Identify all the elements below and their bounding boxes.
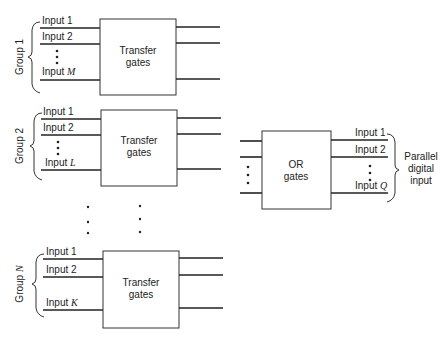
group-n-input-1-label: Input 1 [46, 246, 77, 257]
parallel-label-line1: Parallel [404, 151, 437, 162]
or-output-1-label: Input 1 [355, 127, 386, 138]
ellipsis-dot [56, 50, 59, 53]
ellipsis-dot [56, 62, 59, 65]
diagram-canvas: Group 1 Input 1 Input 2 Input M Transfer… [0, 0, 444, 343]
or-block-label-line1: OR [289, 159, 304, 170]
parallel-label-line2: digital [408, 163, 434, 174]
group-2-input-l-label: Input L [45, 157, 76, 168]
parallel-brace [387, 134, 399, 202]
group-1-brace [28, 22, 40, 93]
ellipsis-dot [57, 141, 60, 144]
group-1-block-label-line2: gates [126, 57, 150, 68]
group-n-brace [32, 254, 44, 317]
group-2-input-2-label: Input 2 [43, 122, 74, 133]
ellipsis-dot [87, 206, 89, 208]
group-2-brace [30, 113, 42, 180]
or-output-q-label: Input Q [355, 180, 388, 191]
group-n-input-2-label: Input 2 [46, 264, 77, 275]
group-1: Group 1 Input 1 Input 2 Input M Transfer… [14, 15, 220, 95]
ellipsis-dot [139, 205, 141, 207]
group-n-label: Group N [14, 264, 25, 303]
ellipsis-dot [139, 231, 141, 233]
group-n: Group N Input 1 Input 2 Input K Transfer… [14, 246, 223, 328]
ellipsis-dot [87, 221, 89, 223]
group-2-input-1-label: Input 1 [43, 106, 74, 117]
ellipsis-dot [56, 56, 59, 59]
ellipsis-dot [247, 182, 250, 185]
group-n-input-k-label: Input K [46, 297, 79, 308]
group-ellipsis [87, 205, 141, 234]
group-1-block-label-line1: Transfer [120, 45, 158, 56]
or-gates: OR gates Input 1 Input 2 Input Q Paralle… [240, 127, 438, 209]
group-n-block-label-line1: Transfer [123, 277, 161, 288]
ellipsis-dot [369, 165, 372, 168]
group-1-input-1-label: Input 1 [42, 15, 73, 26]
group-2-label: Group 2 [14, 127, 25, 164]
group-1-input-m-label: Input M [42, 66, 76, 77]
or-output-2-label: Input 2 [355, 144, 386, 155]
group-2-block-label-line1: Transfer [121, 135, 159, 146]
ellipsis-dot [139, 218, 141, 220]
ellipsis-dot [57, 147, 60, 150]
parallel-label-line3: input [410, 175, 432, 186]
ellipsis-dot [247, 166, 250, 169]
group-1-label: Group 1 [14, 38, 25, 75]
ellipsis-dot [87, 232, 89, 234]
ellipsis-dot [247, 174, 250, 177]
ellipsis-dot [57, 153, 60, 156]
group-2-block-label-line2: gates [127, 147, 151, 158]
group-n-block-label-line2: gates [129, 289, 153, 300]
group-1-input-2-label: Input 2 [42, 31, 73, 42]
ellipsis-dot [369, 172, 372, 175]
or-block-label-line2: gates [284, 171, 308, 182]
or-gates-block [262, 131, 331, 209]
group-2: Group 2 Input 1 Input 2 Input L Transfer… [14, 106, 221, 186]
